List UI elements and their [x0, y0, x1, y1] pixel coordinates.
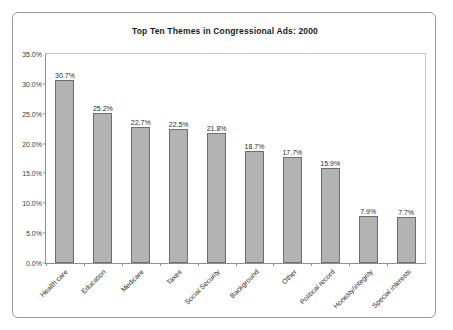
y-axis-tick-label: 30.0% [22, 80, 42, 87]
x-axis-label-slot: Special interests [388, 266, 426, 318]
y-axis-tick-label: 35.0% [22, 51, 42, 58]
y-axis-tick-label: 0.0% [26, 260, 42, 267]
bar[interactable]: 22.5% [169, 129, 188, 263]
y-axis-tick-label: 15.0% [22, 170, 42, 177]
bar-value-label: 21.8% [207, 125, 227, 132]
x-axis-labels: Health careEducationMedicareTaxesSocial … [45, 266, 426, 318]
bar-value-label: 25.2% [93, 105, 113, 112]
bar-value-label: 7.9% [360, 208, 376, 215]
x-axis-label-slot: Education [83, 266, 121, 318]
bar-value-label: 18.7% [245, 143, 265, 150]
bar-slot: 7.9% [349, 54, 387, 263]
y-axis-tick-label: 10.0% [22, 200, 42, 207]
x-axis-category-text: Medicare [120, 268, 145, 293]
chart-card: Top Ten Themes in Congressional Ads: 200… [12, 12, 436, 318]
bar[interactable]: 18.7% [245, 151, 264, 263]
plot-area: 35.0%30.0%25.0%20.0%15.0%10.0%5.0%0.0% 3… [45, 53, 426, 264]
bar-slot: 25.2% [84, 54, 122, 263]
x-axis-category-text: Education [80, 268, 107, 295]
bar[interactable]: 30.7% [55, 80, 74, 263]
bar-value-label: 17.7% [282, 149, 302, 156]
y-axis-tick-label: 25.0% [22, 110, 42, 117]
bar-slot: 18.7% [236, 54, 274, 263]
bar-slot: 30.7% [46, 54, 84, 263]
bar-slot: 21.8% [198, 54, 236, 263]
x-axis-category-text: Taxes [165, 268, 183, 286]
chart-title: Top Ten Themes in Congressional Ads: 200… [13, 26, 437, 36]
bar-series: 30.7%25.2%22.7%22.5%21.8%18.7%17.7%15.9%… [46, 54, 425, 263]
bar[interactable]: 15.9% [321, 168, 340, 263]
bar-value-label: 7.7% [398, 209, 414, 216]
x-axis-label-slot: Background [235, 266, 273, 318]
x-axis-category-text: Health care [39, 268, 69, 298]
bar-value-label: 22.7% [131, 119, 151, 126]
bar[interactable]: 21.8% [207, 133, 226, 263]
bar-value-label: 15.9% [320, 160, 340, 167]
bar-value-label: 30.7% [55, 72, 75, 79]
y-axis-tick-label: 20.0% [22, 140, 42, 147]
bar-slot: 22.5% [160, 54, 198, 263]
y-axis-tick-label: 5.0% [26, 230, 42, 237]
bar[interactable]: 25.2% [93, 113, 112, 263]
x-axis-label-slot: Medicare [121, 266, 159, 318]
bar-slot: 22.7% [122, 54, 160, 263]
bar-value-label: 22.5% [169, 121, 189, 128]
bar-slot: 17.7% [273, 54, 311, 263]
bar[interactable]: 22.7% [131, 127, 150, 263]
x-axis-category-text: Other [280, 268, 297, 285]
x-axis-label-slot: Health care [45, 266, 83, 318]
bar-slot: 15.9% [311, 54, 349, 263]
